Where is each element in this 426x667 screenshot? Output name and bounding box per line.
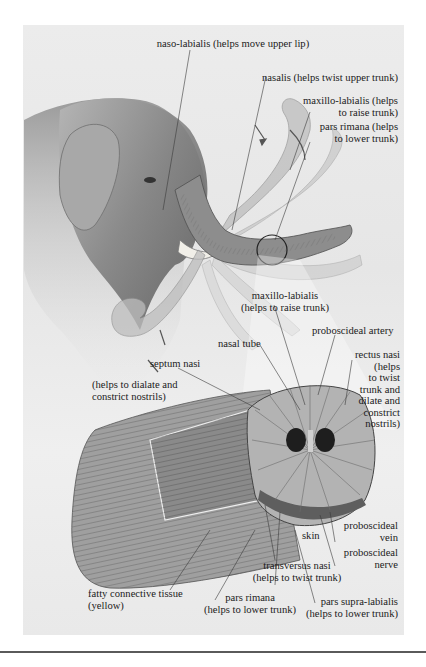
- label-maxillo-labialis-top: maxillo-labialis (helps to raise trunk): [268, 95, 398, 118]
- label-fatty-connective-tissue: fatty connective tissue (yellow): [88, 588, 228, 611]
- label-transversus-nasi: transversus nasi (helps to twist trunk): [232, 560, 362, 583]
- left-nostril: [286, 428, 306, 452]
- right-nostril: [315, 428, 335, 452]
- label-pars-rimana-top: pars rimana (helps to lower trunk): [288, 121, 398, 144]
- label-naso-labialis: naso-labialis (helps move upper lip): [133, 38, 333, 50]
- label-nasalis: nasalis (helps twist upper trunk): [230, 72, 398, 84]
- label-proboscideal-artery: proboscideal artery: [312, 325, 412, 337]
- label-nasal-tube: nasal tube: [218, 338, 288, 350]
- label-pars-supra-labialis: pars supra-labialis (helps to lower trun…: [285, 596, 398, 619]
- label-septum-nasi-note: (helps to dialate and constrict nostrils…: [92, 379, 222, 402]
- label-maxillo-labialis-mid: maxillo-labialis (helps to raise trunk): [230, 290, 340, 313]
- label-rectus-nasi: rectus nasi (helps to twist trunk and di…: [334, 349, 400, 430]
- label-septum-nasi: septum nasi: [150, 358, 230, 370]
- page-rule: [0, 651, 426, 653]
- elephant-head: [24, 98, 220, 395]
- label-proboscideal-vein: proboscideal vein: [330, 520, 398, 543]
